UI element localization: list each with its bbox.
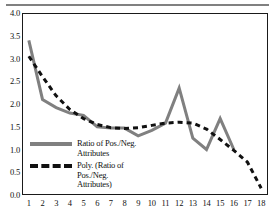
x-tick-label: 5 (77, 198, 91, 208)
x-tick-label: 4 (63, 198, 77, 208)
x-tick-label: 9 (131, 198, 145, 208)
x-tick-label: 2 (36, 198, 50, 208)
y-tick-label: 1.0 (0, 146, 20, 155)
x-tick-label: 3 (49, 198, 63, 208)
y-tick-label: 1.5 (0, 123, 20, 132)
y-tick-label: 0.0 (0, 191, 20, 200)
legend-swatch-dashed-line-icon (30, 164, 72, 168)
x-tick-label: 13 (186, 198, 200, 208)
x-axis: 123456789101112131415161718 (22, 198, 268, 212)
x-tick-label: 1 (22, 198, 36, 208)
y-tick-label: 0.5 (0, 168, 20, 177)
x-tick-label: 11 (159, 198, 173, 208)
y-tick-label: 2.0 (0, 100, 20, 109)
y-tick-label: 3.5 (0, 32, 20, 41)
x-tick-label: 12 (172, 198, 186, 208)
x-tick-label: 17 (241, 198, 255, 208)
x-tick-label: 10 (145, 198, 159, 208)
top-horizontal-rule (6, 4, 269, 6)
legend-swatch-solid-line-icon (30, 142, 72, 146)
chart-figure: 4.03.53.02.52.01.51.00.50.0 123456789101… (0, 0, 275, 215)
x-tick-label: 16 (227, 198, 241, 208)
legend-label-poly-trend: Poly. (Ratio of Pos./Neg. Attributes) (77, 161, 150, 190)
legend-item-ratio: Ratio of Pos./Neg. Attributes (30, 139, 150, 158)
y-tick-label: 3.0 (0, 55, 20, 64)
legend-label-ratio: Ratio of Pos./Neg. Attributes (77, 139, 150, 158)
x-tick-label: 8 (118, 198, 132, 208)
x-tick-label: 7 (104, 198, 118, 208)
y-axis: 4.03.53.02.52.01.51.00.50.0 (0, 0, 20, 215)
y-tick-label: 4.0 (0, 9, 20, 18)
y-tick-label: 2.5 (0, 77, 20, 86)
legend-item-poly-trend: Poly. (Ratio of Pos./Neg. Attributes) (30, 161, 150, 190)
chart-legend: Ratio of Pos./Neg. Attributes Poly. (Rat… (30, 139, 150, 193)
x-tick-label: 15 (213, 198, 227, 208)
x-tick-label: 6 (90, 198, 104, 208)
x-tick-label: 14 (200, 198, 214, 208)
x-tick-label: 18 (254, 198, 268, 208)
